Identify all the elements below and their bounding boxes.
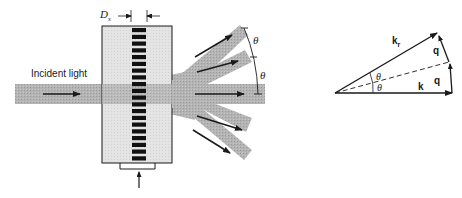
figure-canvas [0,0,462,198]
grating-bar [132,75,146,79]
grating-bar [132,96,146,100]
vector-q-upper [439,36,449,62]
grating-bar [132,129,146,133]
grating-bar [132,150,146,154]
vector-k-label: k [418,82,424,92]
kr-subscript: r [398,41,401,48]
grating-bar [132,123,146,127]
grating-width-label: Ds [100,9,111,20]
dimension-symbol: D [100,8,108,20]
grating-bar [132,136,146,140]
grating-bar [132,109,146,113]
vector-q-lower-label: q [434,76,440,86]
grating-bar [132,102,146,106]
grating-width-dimension [118,10,160,22]
theta-lower-label: θ [377,83,382,93]
theta-upper-label: θ [376,72,381,82]
transducer [120,163,155,188]
grating-bar [132,28,146,32]
grating-bar [132,116,146,120]
kr-symbol: k [392,35,398,46]
grating-bar [132,55,146,59]
angle-label-upper: θ [253,35,258,46]
vector-q-upper-label: q [433,46,439,56]
dimension-subscript: s [108,15,111,23]
grating-bar [132,42,146,46]
grating-bar [132,156,146,160]
acoustic-cell [102,26,192,163]
diffraction-figure: Incident light Ds θ θ kr q q k θ θ [0,0,462,198]
grating-bar [132,89,146,93]
vector-kr-label: kr [392,36,400,46]
vector-q-lower [450,64,452,93]
grating-bar [132,143,146,147]
bisector-line [335,62,449,93]
grating-bar [132,62,146,66]
grating-bar [132,35,146,39]
incident-light-label: Incident light [31,69,87,79]
grating-bar [132,69,146,73]
grating-bar [132,82,146,86]
angle-label-lower: θ [260,70,265,81]
grating-bar [132,48,146,52]
